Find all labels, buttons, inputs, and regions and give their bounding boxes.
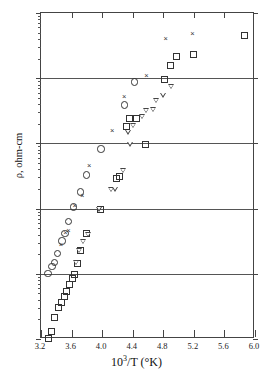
y-axis-minor-tick [38, 177, 42, 178]
y-axis-minor-tick [38, 81, 42, 82]
data-point-square [77, 247, 84, 254]
data-point-circle [48, 263, 55, 270]
data-point-circle [51, 259, 58, 266]
x-axis-tick [255, 330, 256, 337]
y-axis-minor-tick [38, 169, 42, 170]
data-point-triangle-down [112, 187, 118, 192]
y-axis-major-tick [36, 143, 41, 144]
y-axis-minor-tick [38, 27, 42, 28]
x-axis-tick [41, 330, 42, 337]
x-axis-tick [163, 330, 164, 337]
x-axis-tick [72, 330, 73, 337]
y-axis-minor-tick [38, 277, 42, 278]
y-axis-minor-tick [38, 254, 42, 255]
data-point-triangle-down [73, 260, 79, 265]
y-axis-minor-tick [38, 47, 42, 48]
data-point-triangle-down [168, 84, 174, 89]
data-point-square [142, 141, 149, 148]
y-axis-minor-tick [38, 153, 42, 154]
data-point-triangle-down [76, 248, 82, 253]
data-point-square [190, 51, 197, 58]
gridline [41, 274, 255, 275]
data-point-x: × [121, 93, 128, 100]
y-axis-minor-tick [38, 189, 42, 190]
data-point-square [55, 304, 62, 311]
y-axis-minor-tick [38, 104, 42, 105]
x-axis-tick [102, 330, 103, 337]
triangle-inner [109, 188, 113, 191]
plot-area: ××××××××××× [40, 12, 254, 338]
y-axis-minor-tick [38, 308, 42, 309]
triangle-inner [161, 93, 165, 96]
data-point-x: × [189, 30, 196, 37]
x-axis-tick-label: 5.2 [178, 342, 208, 351]
y-axis-minor-tick [38, 243, 42, 244]
y-axis-minor-tick [38, 319, 42, 320]
y-axis-minor-tick [38, 146, 42, 147]
data-point-circle [65, 218, 72, 225]
x-axis-tick-top [102, 13, 103, 18]
x-axis-tick-label: 6.0 [239, 342, 269, 351]
data-point-x: × [79, 192, 86, 199]
triangle-inner [151, 108, 155, 111]
data-point-circle [54, 250, 61, 257]
data-point-square [69, 275, 76, 282]
x-axis-title: 103/T (°K) [0, 352, 273, 369]
data-point-x: × [162, 35, 169, 42]
data-point-square [133, 115, 140, 122]
y-axis-major-tick-right [253, 339, 258, 340]
data-point-triangle-down [85, 232, 91, 237]
data-point-x: × [109, 127, 116, 134]
data-point-circle [121, 101, 128, 108]
y-axis-minor-tick [38, 212, 42, 213]
y-axis-minor-tick [38, 16, 42, 17]
x-axis-tick [224, 330, 225, 337]
y-axis-major-tick-right [253, 274, 258, 275]
data-point-triangle-down [150, 107, 156, 112]
y-axis-minor-tick [38, 59, 42, 60]
y-axis-minor-tick [38, 88, 42, 89]
data-point-triangle-down [125, 130, 131, 135]
data-point-square [173, 53, 180, 60]
x-axis-tick-label: 4.0 [86, 342, 116, 351]
data-point-square [66, 281, 73, 288]
y-axis-minor-tick [38, 39, 42, 40]
y-axis-minor-tick [38, 23, 42, 24]
y-axis-major-tick-right [253, 209, 258, 210]
x-axis-tick-top [194, 13, 195, 18]
gridline [41, 209, 255, 210]
triangle-inner [144, 109, 148, 112]
data-point-x: × [62, 229, 69, 236]
data-point-triangle-down [108, 187, 114, 192]
y-axis-major-tick [36, 78, 41, 79]
triangle-inner [126, 130, 130, 133]
x-axis-title-base: 10 [111, 355, 123, 369]
y-axis-minor-tick [38, 228, 42, 229]
figure-container: 107108109101010111012 3.23.64.04.44.85.2… [0, 0, 273, 375]
data-point-square [116, 173, 123, 180]
data-point-square [74, 260, 81, 267]
y-axis-minor-tick [38, 280, 42, 281]
x-axis-tick [194, 330, 195, 337]
y-axis-major-tick [36, 274, 41, 275]
y-axis-minor-tick [38, 223, 42, 224]
data-point-x: × [86, 162, 93, 169]
y-axis-minor-tick [38, 293, 42, 294]
x-axis-tick-label: 3.6 [56, 342, 86, 351]
data-point-triangle-down [139, 114, 145, 119]
x-axis-tick-label: 5.6 [208, 342, 238, 351]
data-point-x: × [57, 241, 64, 248]
y-axis-minor-tick [38, 93, 42, 94]
data-point-circle [77, 188, 84, 195]
y-axis-minor-tick [38, 235, 42, 236]
data-point-square [126, 115, 133, 122]
data-point-square [113, 175, 120, 182]
y-axis-major-tick [36, 339, 41, 340]
data-point-circle [83, 171, 90, 178]
y-axis-major-tick [36, 13, 41, 14]
y-axis-minor-tick [38, 85, 42, 86]
triangle-inner [74, 261, 78, 264]
y-axis-minor-tick [38, 284, 42, 285]
data-point-circle [97, 145, 104, 152]
y-axis-minor-tick [38, 150, 42, 151]
